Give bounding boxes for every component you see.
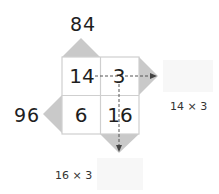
- cell-r0c1: 3: [104, 66, 134, 86]
- top-label: 84: [70, 15, 96, 34]
- cell-r1c0: 6: [62, 105, 100, 125]
- lattice-diagram: 84 96 14 3 6 16 14 × 3 16 × 3: [0, 0, 219, 194]
- diagram-shapes: [0, 0, 219, 194]
- cell-r0c0: 14: [64, 66, 100, 86]
- top-triangle: [62, 38, 100, 57]
- faint-area-bottom: [97, 158, 143, 190]
- arrow-right-label: 14 × 3: [170, 101, 207, 112]
- left-label: 96: [14, 106, 40, 125]
- faint-area-right: [163, 60, 213, 92]
- left-triangle: [43, 95, 62, 133]
- cell-r1c1: 16: [101, 105, 139, 125]
- arrow-down-label: 16 × 3: [55, 170, 92, 181]
